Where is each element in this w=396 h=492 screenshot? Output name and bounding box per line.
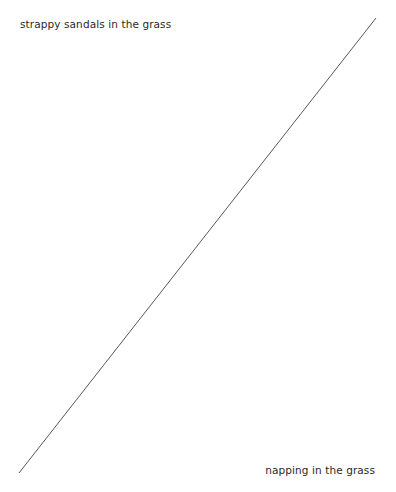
diagonal-line (0, 0, 396, 492)
bottom-right-label: napping in the grass (265, 464, 375, 476)
diagram-canvas: strappy sandals in the grass napping in … (0, 0, 396, 492)
top-left-label: strappy sandals in the grass (20, 18, 171, 30)
